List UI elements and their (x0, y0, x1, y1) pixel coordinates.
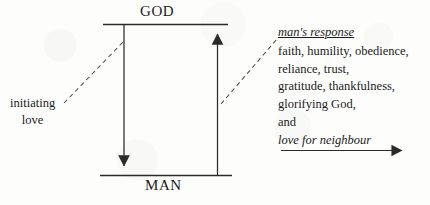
initiating-love-line-2: love (22, 113, 44, 127)
mans-response-leader-line (221, 39, 277, 104)
response-line-1: faith, humility, obedience, (278, 43, 409, 61)
man-label: MAN (145, 178, 182, 193)
response-line-2: reliance, trust, (278, 61, 409, 79)
mans-response-heading: man's response (278, 24, 409, 42)
god-label: GOD (140, 4, 174, 19)
initiating-love-label: initiating love (10, 95, 55, 128)
response-line-5: and (278, 114, 409, 132)
love-for-neighbour-line: love for neighbour (278, 132, 409, 150)
initiating-love-leader-line (64, 42, 123, 103)
response-line-4: glorifying God, (278, 96, 409, 114)
diagram-canvas: GOD MAN initiating love man's response f… (0, 0, 430, 205)
response-line-3: gratitude, thankfulness, (278, 78, 409, 96)
initiating-love-line-1: initiating (10, 96, 55, 110)
mans-response-annotation: man's response faith, humility, obedienc… (278, 24, 409, 149)
